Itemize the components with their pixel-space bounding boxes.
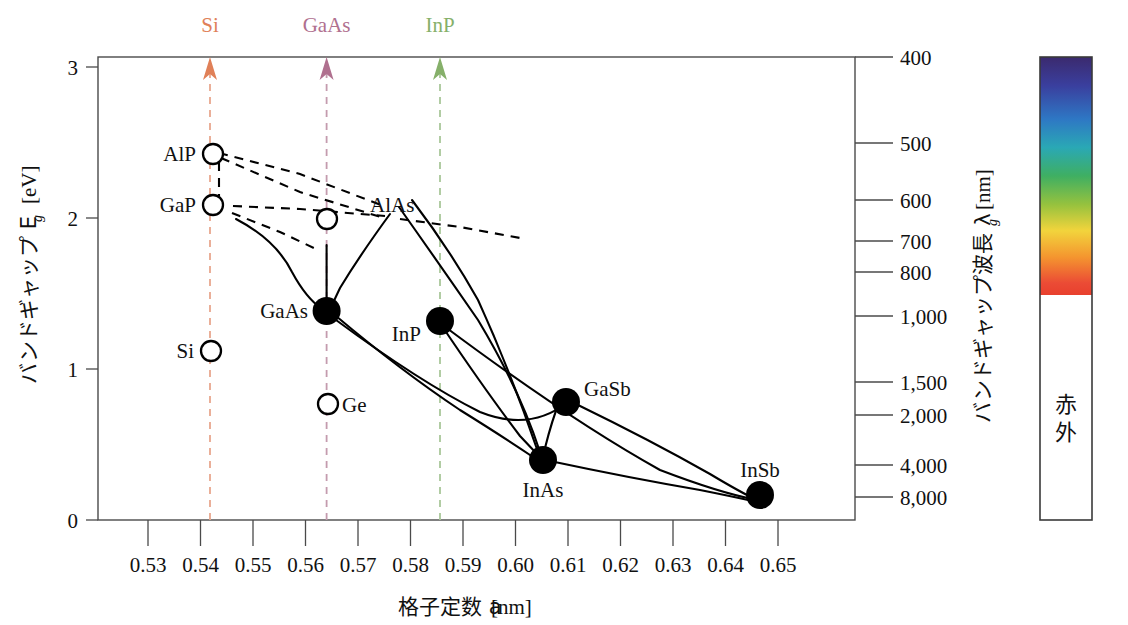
point-marker-alp[interactable] bbox=[203, 144, 223, 164]
y-tick-label-0: 0 bbox=[68, 509, 79, 533]
colorbar-infrared-label-char1: 赤 bbox=[1055, 392, 1077, 417]
substrate-label-inp: InP bbox=[425, 13, 454, 37]
x-axis-title-jp: 格子定数 a bbox=[398, 595, 502, 619]
point-label-insb: InSb bbox=[740, 458, 780, 482]
point-marker-alas[interactable] bbox=[317, 209, 337, 229]
curve-inp-inas bbox=[442, 326, 537, 454]
x-tick-label-3: 0.56 bbox=[287, 553, 324, 577]
substrate-guide-si bbox=[203, 57, 217, 520]
x-tick-label-9: 0.62 bbox=[602, 553, 639, 577]
right-tick-label-400: 400 bbox=[900, 46, 932, 70]
substrate-guide-inp bbox=[433, 57, 447, 520]
point-label-inp: InP bbox=[392, 322, 421, 346]
x-axis-title: 格子定数 a [nm] bbox=[398, 595, 532, 619]
y-axis-title-right-jp: バンドギャップ波長 λ bbox=[971, 213, 995, 422]
y-axis-title-left-sub: g bbox=[30, 215, 45, 222]
y-tick-label-2: 2 bbox=[68, 207, 79, 231]
point-label-si: Si bbox=[176, 339, 194, 363]
x-tick-label-0: 0.53 bbox=[130, 553, 167, 577]
x-axis-title-unit: [nm] bbox=[491, 595, 532, 619]
y-axis-ticks-right bbox=[855, 57, 893, 497]
point-marker-insb[interactable] bbox=[746, 481, 774, 509]
colorbar-visible-gradient bbox=[1040, 57, 1092, 295]
x-tick-label-6: 0.59 bbox=[445, 553, 482, 577]
point-marker-gap[interactable] bbox=[203, 195, 223, 215]
colorbar-infrared-label-char2: 外 bbox=[1055, 420, 1077, 445]
data-point-markers bbox=[201, 144, 774, 509]
x-tick-label-4: 0.57 bbox=[340, 553, 377, 577]
substrate-label-si: Si bbox=[201, 13, 219, 37]
x-tick-label-2: 0.55 bbox=[235, 553, 272, 577]
curve-alp-alas bbox=[219, 153, 386, 207]
y-axis-title-left-jp: バンドギャップ E bbox=[17, 216, 41, 384]
substrate-label-gaas: GaAs bbox=[303, 13, 351, 37]
x-tick-label-8: 0.61 bbox=[550, 553, 587, 577]
x-tick-label-10: 0.63 bbox=[655, 553, 692, 577]
point-label-inas: InAs bbox=[523, 478, 564, 502]
y-tick-label-1: 1 bbox=[68, 358, 79, 382]
right-tick-label-8000: 8,000 bbox=[900, 486, 947, 510]
point-marker-gasb[interactable] bbox=[552, 388, 580, 416]
point-marker-inp[interactable] bbox=[426, 307, 454, 335]
y-axis-title-left: バンドギャップ E g [eV] bbox=[17, 166, 45, 384]
right-tick-label-700: 700 bbox=[900, 230, 932, 254]
x-axis-ticks bbox=[148, 520, 778, 546]
x-tick-label-7: 0.60 bbox=[497, 553, 534, 577]
point-marker-si[interactable] bbox=[201, 341, 221, 361]
curve-gasb-insb bbox=[578, 405, 757, 500]
right-tick-label-800: 800 bbox=[900, 261, 932, 285]
point-label-alas: AlAs bbox=[370, 193, 414, 217]
x-tick-label-5: 0.58 bbox=[392, 553, 429, 577]
right-tick-label-1500: 1,500 bbox=[900, 371, 947, 395]
y-axis-title-left-unit: [eV] bbox=[17, 166, 41, 204]
curve-alas-gaas bbox=[332, 214, 390, 305]
y-tick-label-3: 3 bbox=[68, 56, 79, 80]
point-label-gaas: GaAs bbox=[260, 299, 308, 323]
point-label-ge: Ge bbox=[342, 393, 367, 417]
plot-frame bbox=[98, 57, 855, 520]
x-tick-label-1: 0.54 bbox=[182, 553, 219, 577]
curve-gap-gaas-indirect bbox=[232, 213, 316, 249]
x-tick-label-11: 0.64 bbox=[707, 553, 744, 577]
chart-canvas: 3 2 1 0 バンドギャップ E g [eV] 0.53 0.5 bbox=[0, 0, 1128, 625]
bandgap-lattice-constant-figure: 3 2 1 0 バンドギャップ E g [eV] 0.53 0.5 bbox=[0, 0, 1128, 625]
right-tick-label-500: 500 bbox=[900, 132, 932, 156]
alloy-curve-group bbox=[219, 153, 757, 502]
right-tick-label-1000: 1,000 bbox=[900, 305, 947, 329]
x-tick-label-12: 0.65 bbox=[760, 553, 797, 577]
point-label-gap: GaP bbox=[160, 193, 196, 217]
y-axis-title-right-sub: g bbox=[985, 219, 1000, 226]
point-marker-inas[interactable] bbox=[529, 446, 557, 474]
right-tick-label-4000: 4,000 bbox=[900, 454, 947, 478]
y-axis-title-right: バンドギャップ波長 λ g [nm] bbox=[971, 169, 1000, 422]
point-label-alp: AlP bbox=[163, 142, 196, 166]
point-label-gasb: GaSb bbox=[584, 377, 631, 401]
spectrum-colorbar: 赤 外 bbox=[1040, 57, 1092, 520]
right-tick-label-600: 600 bbox=[900, 189, 932, 213]
y-axis-ticks-left bbox=[86, 67, 98, 520]
point-marker-gaas[interactable] bbox=[313, 297, 341, 325]
right-tick-label-2000: 2,000 bbox=[900, 404, 947, 428]
point-marker-ge[interactable] bbox=[318, 394, 338, 414]
y-axis-title-right-unit: [nm] bbox=[971, 169, 995, 210]
